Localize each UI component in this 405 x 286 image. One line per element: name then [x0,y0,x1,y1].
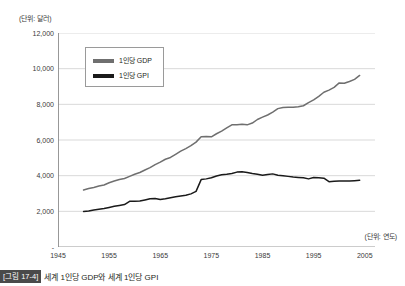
figure-caption-text: 세계 1인당 GDP와 세계 1인당 GPI [44,271,158,282]
figure-caption: [그림 17-4] 세계 1인당 GDP와 세계 1인당 GPI [0,267,405,286]
legend-swatch-gpi [93,74,114,78]
y-axis-tick-label: 8,000 [14,101,54,108]
y-axis-tick-label: 4,000 [14,172,54,179]
y-axis-tick-label: 10,000 [14,65,54,72]
x-axis-tick-label: 1965 [140,252,180,260]
chart-legend: 1인당 GDP 1인당 GPI [85,47,164,87]
x-axis-tick-label: 2005 [345,252,385,260]
x-axis-unit-label: (단위: 연도) [364,231,397,241]
legend-label-gdp: 1인당 GDP [119,57,152,65]
y-axis-tick-label: 12,000 [14,30,54,37]
series-line-gdp [84,75,360,189]
x-axis-tick-labels: 1945195519651975198519952005 [58,252,375,264]
figure-number-badge: [그림 17-4] [0,270,41,283]
y-axis-tick-labels: 12,00010,0008,0006,0004,0002,000- [12,33,54,247]
x-axis-tick-label: 1985 [243,252,283,260]
y-axis-tick-label: 6,000 [14,137,54,144]
y-axis-unit-label: (단위: 달러) [19,13,52,23]
legend-item-gpi: 1인당 GPI [93,68,163,83]
series-lines [84,75,360,211]
legend-swatch-gdp [93,59,114,63]
x-axis-tick-label: 1955 [89,252,129,260]
x-axis-tick-label: 1995 [294,252,334,260]
legend-label-gpi: 1인당 GPI [119,72,149,80]
caption-divider [0,264,405,265]
x-axis-tick-label: 1975 [191,252,231,260]
figure-container: (단위: 달러) 12,00010,0008,0006,0004,0002,00… [0,0,405,286]
x-axis-tick-label: 1945 [38,252,78,260]
y-axis-tick-label: - [14,244,54,251]
legend-item-gdp: 1인당 GDP [93,53,163,68]
y-axis-tick-label: 2,000 [14,208,54,215]
